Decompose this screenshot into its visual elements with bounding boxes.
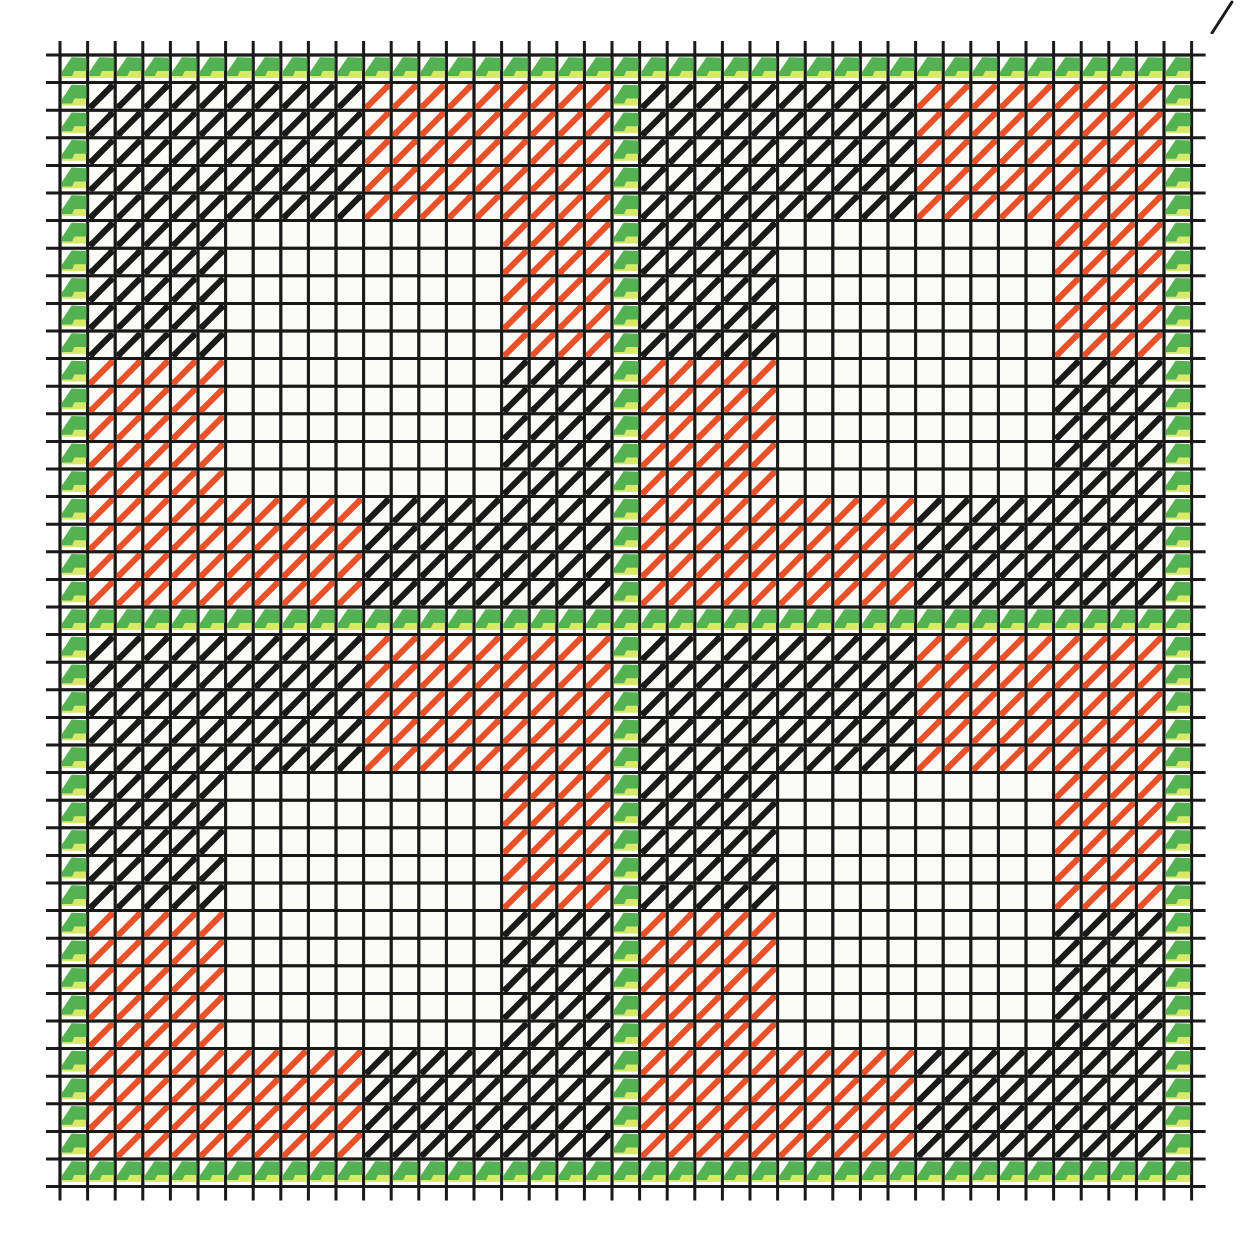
stitch-pattern-canvas — [0, 0, 1242, 1256]
cross-stitch-chart — [0, 0, 1242, 1256]
page-corner-slash-icon — [1210, 0, 1236, 34]
